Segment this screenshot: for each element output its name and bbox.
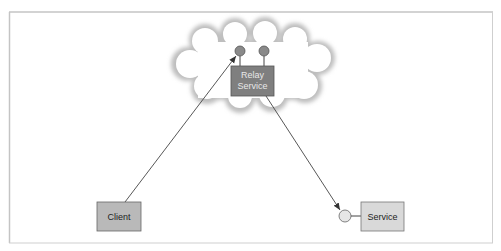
service-endpoint (339, 210, 361, 222)
cloud-shape (171, 17, 335, 113)
relay-service-label-line1: Relay (241, 70, 265, 80)
diagram-canvas: Relay Service Client Service (0, 0, 501, 251)
client-node[interactable]: Client (97, 202, 141, 231)
relay-service-label-line2: Service (237, 81, 267, 91)
service-node[interactable]: Service (361, 202, 404, 231)
service-label: Service (367, 212, 397, 222)
client-label: Client (107, 212, 131, 222)
relay-service-node[interactable]: Relay Service (231, 66, 274, 96)
relay-to-service-arrow (266, 96, 340, 210)
